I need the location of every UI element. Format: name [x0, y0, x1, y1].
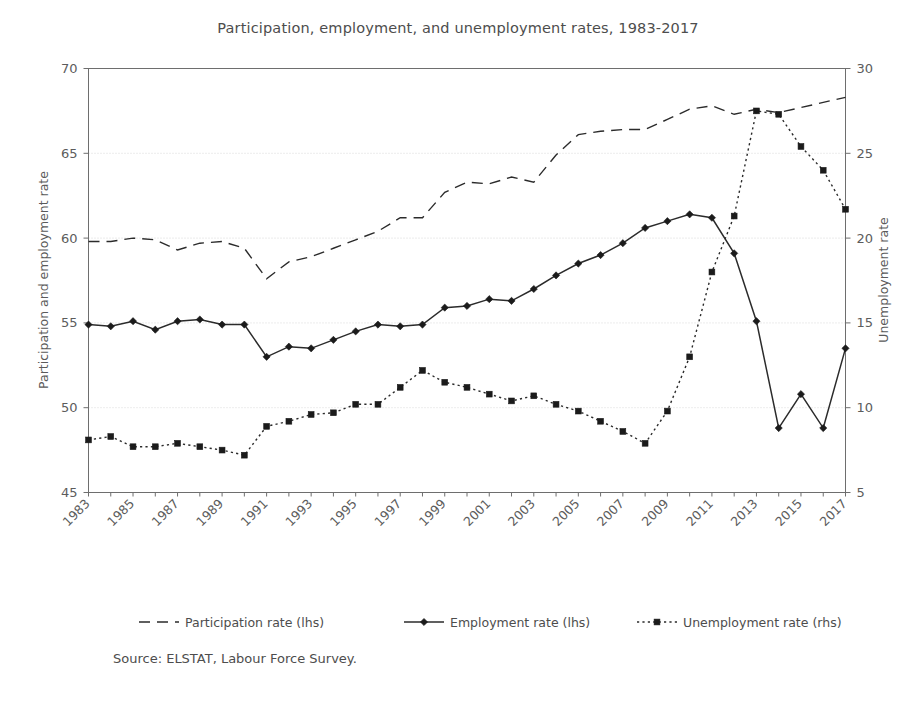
series-marker — [285, 343, 292, 350]
x-axis-tick-label: 2003 — [505, 496, 538, 529]
series-marker — [308, 412, 314, 418]
series-marker — [196, 316, 203, 323]
series-marker — [463, 302, 470, 309]
y-axis-right-title: Unemployment rate — [876, 217, 891, 343]
series-marker — [664, 408, 670, 414]
x-axis-tick-label: 2017 — [817, 496, 850, 529]
series-marker — [731, 250, 738, 257]
series-marker — [107, 323, 114, 330]
y-axis-right-tick-label: 5 — [857, 485, 865, 500]
series-marker — [241, 452, 247, 458]
series-marker — [152, 444, 158, 450]
y-axis-right-tick-label: 15 — [857, 315, 874, 330]
series-marker — [530, 285, 537, 292]
y-axis-left-title: Participation and employment rate — [36, 171, 51, 389]
series-marker — [709, 269, 715, 275]
x-axis-tick-label: 1999 — [416, 496, 449, 529]
legend-marker-1 — [420, 618, 427, 625]
series-marker — [843, 206, 849, 212]
series-marker — [664, 218, 671, 225]
series-marker — [776, 111, 782, 117]
series-marker — [486, 391, 492, 397]
x-axis-tick-label: 1991 — [238, 496, 271, 529]
x-axis-tick-label: 1995 — [327, 496, 360, 529]
series-marker — [686, 211, 693, 218]
source-note: Source: ELSTAT, Labour Force Survey. — [113, 651, 357, 666]
x-axis-tick-label: 2007 — [594, 496, 627, 529]
x-axis-tick-label: 2009 — [638, 496, 671, 529]
series-marker — [218, 321, 225, 328]
series-marker — [642, 440, 648, 446]
series-marker — [798, 144, 804, 150]
series-marker — [108, 434, 114, 440]
series-group — [85, 97, 849, 458]
series-marker — [731, 213, 737, 219]
plot-frame — [89, 69, 846, 493]
x-axis-tick-label: 1989 — [193, 496, 226, 529]
series-marker — [442, 379, 448, 385]
x-axis-tick-label: 2005 — [549, 496, 582, 529]
series-marker — [509, 398, 515, 404]
series-marker — [86, 437, 92, 443]
series-marker — [197, 444, 203, 450]
series-marker — [397, 384, 403, 390]
series-marker — [598, 418, 604, 424]
series-marker — [575, 408, 581, 414]
series-marker — [331, 410, 337, 416]
series-marker — [620, 429, 626, 435]
series-marker — [575, 260, 582, 267]
series-marker — [420, 367, 426, 373]
series-marker — [175, 440, 181, 446]
series-marker — [152, 326, 159, 333]
series-marker — [842, 345, 849, 352]
y-axis-right: 51015202530 — [846, 61, 874, 500]
series-marker — [85, 321, 92, 328]
series-marker — [753, 318, 760, 325]
x-axis-tick-label: 2013 — [727, 496, 760, 529]
series-marker — [174, 318, 181, 325]
series-marker — [820, 167, 826, 173]
chart-legend: Participation rate (lhs)Employment rate … — [139, 615, 842, 630]
series-marker — [687, 354, 693, 360]
chart-figure: Participation, employment, and unemploym… — [0, 0, 916, 702]
series-marker — [352, 328, 359, 335]
legend-marker-2 — [654, 619, 660, 625]
y-axis-left-tick-label: 55 — [61, 315, 78, 330]
y-axis-left-tick-label: 60 — [61, 231, 78, 246]
y-axis-left: 455055606570 — [61, 61, 89, 500]
x-axis-tick-label: 1987 — [149, 496, 182, 529]
x-axis-tick-label: 1985 — [104, 496, 137, 529]
series-marker — [130, 444, 136, 450]
series-marker — [552, 272, 559, 279]
series-marker — [308, 345, 315, 352]
series-marker — [397, 323, 404, 330]
series-marker — [353, 401, 359, 407]
y-axis-left-tick-label: 65 — [61, 146, 78, 161]
x-axis-tick-label: 2011 — [683, 496, 716, 529]
legend-label-0: Participation rate (lhs) — [185, 615, 324, 630]
chart-plot-area: 455055606570 51015202530 198319851987198… — [0, 0, 916, 702]
x-axis-tick-label: 1993 — [282, 496, 315, 529]
y-axis-left-tick-label: 50 — [61, 400, 78, 415]
x-axis: 1983198519871989199119931995199719992001… — [60, 493, 850, 530]
series-marker — [374, 321, 381, 328]
series-marker — [264, 423, 270, 429]
x-axis-tick-label: 1983 — [60, 496, 93, 529]
y-axis-right-tick-label: 25 — [857, 146, 874, 161]
series-marker — [464, 384, 470, 390]
series-marker — [486, 296, 493, 303]
x-axis-tick-label: 2001 — [460, 496, 493, 529]
series-marker — [286, 418, 292, 424]
series-line-2 — [89, 111, 846, 455]
y-axis-right-tick-label: 10 — [857, 400, 874, 415]
series-marker — [330, 336, 337, 343]
series-marker — [553, 401, 559, 407]
legend-label-1: Employment rate (lhs) — [450, 615, 590, 630]
legend-label-2: Unemployment rate (rhs) — [683, 615, 842, 630]
gridlines — [89, 153, 846, 407]
y-axis-left-tick-label: 70 — [61, 61, 78, 76]
series-marker — [754, 108, 760, 114]
x-axis-tick-label: 1997 — [371, 496, 404, 529]
series-marker — [508, 297, 515, 304]
y-axis-right-tick-label: 30 — [857, 61, 874, 76]
